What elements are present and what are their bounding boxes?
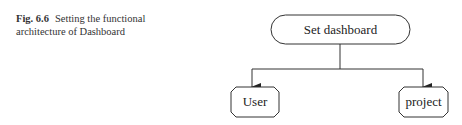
node-label: project: [405, 94, 441, 109]
architecture-diagram: Set dashboard User project: [0, 0, 462, 125]
node-label: Set dashboard: [304, 22, 378, 37]
node-user: User: [231, 87, 279, 117]
node-label: User: [243, 94, 268, 109]
node-project: project: [399, 87, 448, 117]
node-set-dashboard: Set dashboard: [271, 15, 410, 44]
